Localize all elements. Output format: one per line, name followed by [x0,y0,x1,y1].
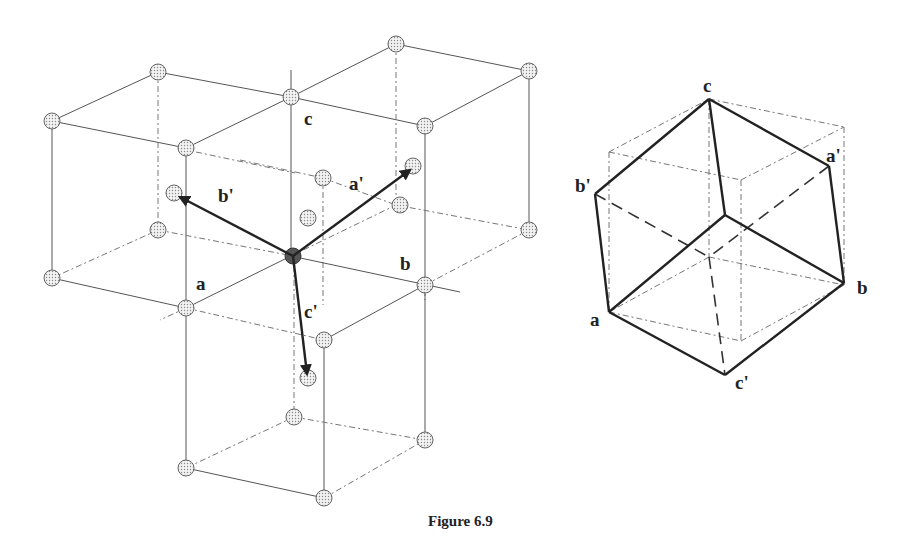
rlabel-b: b [857,277,868,298]
atom [316,332,332,348]
atom [44,270,60,286]
atom [392,197,408,213]
atom [417,277,433,293]
rhombohedron-hidden-edges [595,166,829,375]
atom [166,185,182,201]
atom [315,170,331,186]
atom [417,118,433,134]
atom [417,432,433,448]
atom [150,64,166,80]
label-a-prime: a' [349,173,364,194]
left-lattice-diagram: c b' a' a b c' [44,36,537,506]
conventional-cube [609,99,844,341]
atom [316,490,332,506]
label-a: a [196,273,206,294]
right-rhombohedral-diagram: c a' b' b a c' [575,75,868,393]
atom [150,222,166,238]
rlabel-a-prime: a' [826,145,841,166]
vector-b-prime-arrow [180,197,293,256]
label-b: b [400,253,411,274]
atom [300,210,316,226]
rlabel-b-prime: b' [575,175,591,196]
atom [178,300,194,316]
atom [521,222,537,238]
atom [286,409,302,425]
label-b-prime: b' [218,185,234,206]
atom [521,63,537,79]
atom [44,113,60,129]
atom [283,89,299,105]
rlabel-c-prime: c' [735,372,749,393]
figure-canvas: c b' a' a b c' [0,0,904,556]
figure-caption: Figure 6.9 [428,513,493,530]
atom [388,36,404,52]
upper-right-cube [240,44,529,305]
atom [178,460,194,476]
label-c: c [304,108,312,129]
label-c-prime: c' [304,301,318,322]
atom [178,140,194,156]
rlabel-a: a [590,309,600,330]
primitive-vectors [180,170,410,374]
rlabel-c: c [703,75,711,96]
